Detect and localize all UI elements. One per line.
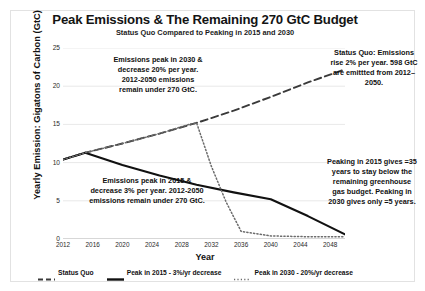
y-tick-10: 10 — [40, 159, 60, 166]
legend-swatch-dashed — [38, 269, 55, 276]
x-tick-2044: 2044 — [285, 241, 315, 248]
legend-label-0: Status Quo — [58, 269, 94, 276]
legend-swatch-dotted — [234, 269, 251, 276]
x-tick-2012: 2012 — [48, 241, 78, 248]
annotation-peak-2015: Emissions peak in 2015 & decrease 3% per… — [88, 176, 206, 206]
x-axis-label: Year — [60, 252, 350, 262]
legend-label-2: Peak in 2030 - 20%/yr decrease — [254, 269, 353, 276]
y-tick-5: 5 — [40, 197, 60, 204]
legend-item-1[interactable]: Peak in 2015 - 3%/yr decrease — [107, 269, 222, 276]
annotation-status-quo: Status Quo: Emissions rise 2% per year. … — [330, 48, 418, 88]
x-tick-2024: 2024 — [137, 241, 167, 248]
x-tick-2028: 2028 — [167, 241, 197, 248]
x-axis-ticks: 2012201620202024202820322036204020442048 — [0, 241, 425, 253]
annotation-peaking-budget: Peaking in 2015 gives =35 years to stay … — [326, 157, 418, 207]
y-tick-25: 25 — [40, 44, 60, 51]
chart-title: Peak Emissions & The Remaining 270 GtC B… — [30, 12, 380, 27]
chart-legend: Status QuoPeak in 2015 - 3%/yr decreaseP… — [38, 266, 418, 278]
x-tick-2032: 2032 — [196, 241, 226, 248]
x-tick-2040: 2040 — [256, 241, 286, 248]
x-tick-2020: 2020 — [107, 241, 137, 248]
legend-item-0[interactable]: Status Quo — [38, 269, 94, 276]
legend-label-1: Peak in 2015 - 3%/yr decrease — [127, 269, 222, 276]
legend-item-2[interactable]: Peak in 2030 - 20%/yr decrease — [234, 269, 353, 276]
y-tick-15: 15 — [40, 120, 60, 127]
x-tick-2016: 2016 — [78, 241, 108, 248]
y-tick-20: 20 — [40, 82, 60, 89]
x-tick-2048: 2048 — [315, 241, 345, 248]
chart-subtitle: Status Quo Compared to Peaking in 2015 a… — [30, 28, 380, 37]
legend-swatch-solid — [107, 269, 124, 276]
annotation-peak-2030: Emissions peak in 2030 & decrease 20% pe… — [110, 55, 206, 95]
x-tick-2036: 2036 — [226, 241, 256, 248]
